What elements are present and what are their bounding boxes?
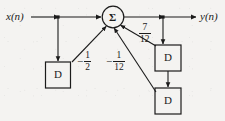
signal-flow-graph-figure: x(n) y(n) Σ D D D 7 12 − 1 2 − 1 12 — [0, 0, 225, 121]
minus-sign: − — [77, 56, 83, 67]
delay-block-2-label: D — [164, 52, 172, 63]
coefficient-negative-one-half: − 1 2 — [77, 51, 91, 72]
fraction-denominator: 12 — [113, 61, 125, 72]
coefficient-negative-one-twelfth: − 1 12 — [106, 51, 125, 72]
delay-block-1-label: D — [54, 69, 62, 80]
fraction-7-12: 7 12 — [139, 23, 151, 44]
fraction-numerator: 1 — [84, 51, 91, 61]
summation-symbol: Σ — [109, 12, 116, 23]
output-signal-label: y(n) — [200, 11, 218, 22]
delay-block-3-label: D — [164, 95, 172, 106]
fraction-denominator: 12 — [139, 33, 151, 44]
fraction-numerator: 1 — [116, 51, 123, 61]
input-signal-label: x(n) — [6, 11, 24, 22]
fraction-1-2: 1 2 — [84, 51, 91, 72]
fraction-1-12: 1 12 — [113, 51, 125, 72]
coefficient-seven-twelfths: 7 12 — [139, 23, 151, 44]
fraction-numerator: 7 — [141, 23, 148, 33]
minus-sign: − — [106, 56, 112, 67]
fraction-denominator: 2 — [84, 61, 91, 72]
